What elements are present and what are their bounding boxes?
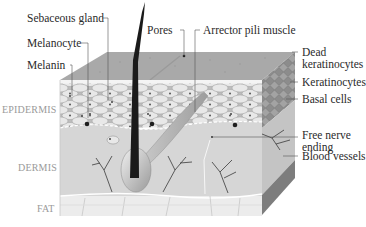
label-dead-line1: Dead: [302, 46, 363, 58]
layer-label-dermis: DERMIS: [18, 162, 57, 173]
label-free-nerve-line1: Free nerve: [302, 129, 351, 141]
skin-surface: [60, 52, 295, 80]
label-basal-cells: Basal cells: [302, 93, 352, 105]
label-melanocyte: Melanocyte: [27, 37, 81, 49]
label-dead-keratinocytes: Dead keratinocytes: [302, 46, 363, 70]
label-melanin: Melanin: [27, 59, 65, 71]
label-keratinocytes: Keratinocytes: [302, 76, 366, 88]
label-dead-line2: keratinocytes: [302, 58, 363, 70]
label-pores: Pores: [147, 24, 173, 36]
label-arrector-pili-muscle: Arrector pili muscle: [203, 24, 296, 36]
label-blood-vessels: Blood vessels: [302, 150, 366, 162]
epidermis-layer: [60, 84, 262, 128]
fat-layer: [60, 196, 262, 216]
skin-diagram: Sebaceous gland Melanocyte Melanin Pores…: [0, 0, 366, 227]
layer-label-epidermis: EPIDERMIS: [2, 104, 57, 115]
label-sebaceous-gland: Sebaceous gland: [27, 12, 104, 24]
layer-label-fat: FAT: [37, 203, 55, 214]
